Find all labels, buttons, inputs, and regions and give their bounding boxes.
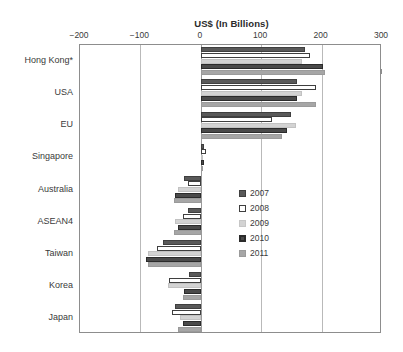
bar: [163, 240, 200, 245]
bar: [201, 79, 298, 84]
category-label: Singapore: [0, 151, 73, 161]
bar: [174, 230, 201, 235]
bar: [184, 176, 201, 181]
bar: [188, 208, 201, 213]
bar: [178, 225, 201, 230]
bar: [175, 219, 200, 224]
category-label: Hong Kong*: [0, 55, 73, 65]
category-label: Australia: [0, 184, 73, 194]
x-tick-label: −200: [69, 30, 88, 40]
legend-item[interactable]: 2008: [239, 201, 299, 216]
legend-item[interactable]: 2011: [239, 246, 299, 261]
bar: [188, 181, 201, 186]
bar: [201, 64, 323, 69]
category-label: Korea: [0, 280, 73, 290]
legend-item[interactable]: 2007: [239, 186, 299, 201]
bar: [148, 262, 201, 267]
bar: [201, 70, 325, 75]
x-tick-label: 0: [197, 30, 202, 40]
bar: [178, 327, 201, 332]
category-label: Japan: [0, 312, 73, 322]
bar: [201, 96, 298, 101]
x-tick-label: 300: [374, 30, 388, 40]
legend-item[interactable]: 2009: [239, 216, 299, 231]
bar: [201, 166, 203, 171]
bar: [201, 47, 305, 52]
bar: [201, 85, 316, 90]
x-tick-mark: [381, 69, 382, 74]
bar-chart: US$ (In Billions) −200−1000100200300 200…: [0, 0, 403, 352]
category-label: Taiwan: [0, 248, 73, 258]
category-label: USA: [0, 87, 73, 97]
bar: [201, 134, 283, 139]
legend-swatch-icon: [239, 235, 246, 242]
plot-inner: [80, 45, 380, 332]
gridline: [322, 45, 323, 332]
bar: [175, 193, 200, 198]
bar: [183, 295, 201, 300]
legend-swatch-icon: [239, 220, 246, 227]
legend-label: 2010: [250, 234, 269, 243]
bar: [201, 59, 302, 64]
legend-swatch-icon: [239, 205, 246, 212]
x-tick-label: 200: [314, 30, 328, 40]
category-label: EU: [0, 119, 73, 129]
bar: [172, 310, 201, 315]
bar: [183, 214, 201, 219]
bar: [201, 144, 204, 149]
legend-item[interactable]: 2010: [239, 231, 299, 246]
bar: [169, 278, 200, 283]
legend-swatch-icon: [239, 190, 246, 197]
bar: [184, 289, 201, 294]
bar: [201, 128, 287, 133]
bar: [174, 198, 201, 203]
bar: [201, 102, 316, 107]
bar: [148, 251, 201, 256]
x-tick-label: −100: [130, 30, 149, 40]
legend-label: 2011: [250, 249, 268, 258]
bar: [189, 272, 201, 277]
x-tick-label: 100: [253, 30, 267, 40]
bar: [201, 112, 292, 117]
bar: [201, 91, 302, 96]
bar: [175, 304, 200, 309]
plot-area: [79, 44, 381, 333]
gridline: [140, 45, 141, 332]
bar: [180, 315, 201, 320]
legend-label: 2008: [250, 204, 269, 213]
category-label: ASEAN4: [0, 216, 73, 226]
chart-legend: 20072008200920102011: [239, 186, 299, 261]
bar: [201, 117, 272, 122]
bar: [146, 257, 200, 262]
legend-swatch-icon: [239, 250, 246, 257]
bar: [178, 187, 201, 192]
legend-label: 2009: [250, 219, 269, 228]
bar: [201, 155, 203, 160]
bar: [183, 321, 201, 326]
bar: [168, 283, 201, 288]
bar: [201, 123, 296, 128]
bar: [157, 246, 200, 251]
legend-label: 2007: [250, 189, 269, 198]
chart-title: US$ (In Billions): [0, 18, 403, 29]
bar: [201, 160, 205, 165]
bar: [201, 53, 310, 58]
bar: [201, 149, 206, 154]
x-axis-tick-labels: −200−1000100200300: [0, 30, 403, 42]
